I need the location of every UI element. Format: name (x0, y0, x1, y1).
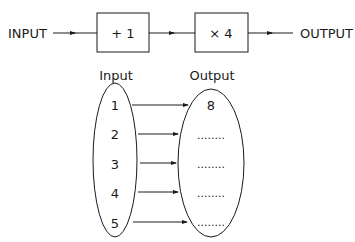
output-blank-4: ........ (197, 187, 225, 200)
input-value-2: 2 (111, 127, 119, 142)
input-value-5: 5 (111, 216, 119, 231)
function-machine-diagram: INPUT + 1 × 4 OUTPUT Input Output 1 2 3 … (0, 0, 355, 242)
output-label: OUTPUT (300, 26, 353, 41)
output-value-1: 8 (207, 98, 215, 113)
output-blank-2: ........ (197, 129, 225, 142)
input-value-4: 4 (111, 186, 119, 201)
input-label: INPUT (8, 26, 47, 41)
input-column-header: Input (99, 68, 133, 83)
add-one-label: + 1 (111, 26, 134, 41)
input-value-1: 1 (111, 98, 119, 113)
multiply-four-label: × 4 (209, 26, 232, 41)
output-column-header: Output (189, 68, 234, 83)
input-value-3: 3 (111, 157, 119, 172)
output-blank-3: ........ (197, 158, 225, 171)
output-blank-5: ........ (197, 216, 225, 229)
